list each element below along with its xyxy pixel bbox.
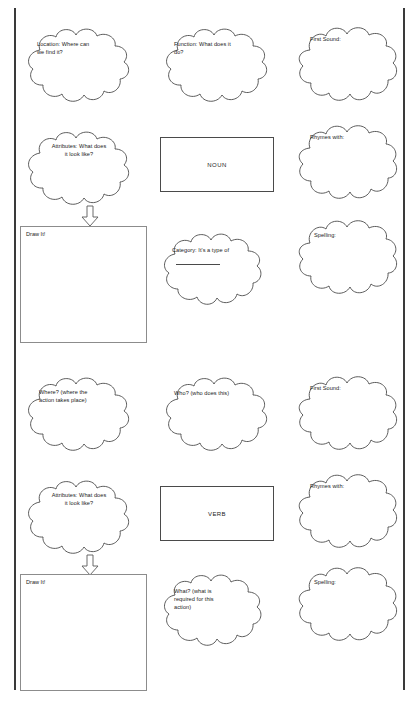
cloud-noun-rhymes-label: Rhymes with: [310, 133, 390, 141]
cloud-verb-spelling-label: Spelling: [314, 578, 394, 586]
down-arrow-icon-noun [81, 205, 99, 227]
draw-it-box-noun[interactable]: Draw It! [20, 226, 147, 343]
cloud-shape [160, 373, 276, 459]
category-blank-line-noun [176, 264, 220, 265]
cloud-noun-spelling: Spelling: [296, 215, 402, 303]
cloud-noun-rhymes: Rhymes with: [296, 120, 402, 208]
cloud-verb-what: What? (what is required for this action) [158, 570, 270, 654]
cloud-noun-spelling-label: Spelling: [314, 231, 394, 239]
cloud-noun-first-sound: First Sound: [296, 22, 402, 110]
cloud-noun-function: Function: What does it do? [160, 24, 276, 110]
noun-word-box: NOUN [160, 137, 274, 192]
draw-it-box-noun-label: Draw It! [26, 231, 45, 237]
cloud-noun-location: Location: Where can we find it? [22, 24, 138, 110]
arrow-shape [81, 205, 99, 227]
page-border-right [403, 8, 405, 690]
cloud-noun-category-label: Category: It's a type of [172, 246, 264, 254]
cloud-verb-first-sound-label: First Sound: [310, 384, 390, 392]
cloud-shape [160, 24, 276, 110]
verb-word-box: VERB [160, 486, 274, 541]
cloud-noun-function-label: Function: What does it do? [174, 40, 266, 56]
noun-word-box-label: NOUN [207, 162, 226, 168]
arrow-shape [81, 554, 99, 576]
cloud-shape [22, 476, 138, 562]
cloud-verb-rhymes-label: Rhymes with: [310, 482, 390, 490]
cloud-noun-attributes-label: Attributes: What does it look like? [34, 142, 124, 158]
cloud-shape [296, 215, 402, 303]
cloud-verb-who: Who? (who does this) [160, 373, 276, 459]
cloud-verb-where: Where? (where the action takes place) [22, 373, 138, 459]
page-border-left [14, 8, 16, 690]
cloud-verb-spelling: Spelling: [296, 562, 402, 650]
cloud-verb-what-label: What? (what is required for this action) [174, 587, 252, 612]
cloud-verb-who-label: Who? (who does this) [174, 389, 269, 397]
cloud-verb-attributes-label: Attributes: What does it look like? [34, 491, 124, 507]
draw-it-box-verb-label: Draw It! [26, 579, 45, 585]
cloud-noun-category: Category: It's a type of [158, 229, 270, 313]
cloud-shape [22, 127, 138, 213]
cloud-noun-first-sound-label: First Sound: [310, 35, 390, 43]
cloud-shape [158, 229, 270, 313]
cloud-verb-first-sound: First Sound: [296, 371, 402, 459]
draw-it-box-verb[interactable]: Draw It! [20, 574, 147, 691]
cloud-verb-where-label: Where? (where the action takes place) [39, 388, 127, 404]
cloud-verb-rhymes: Rhymes with: [296, 469, 402, 557]
verb-word-box-label: VERB [208, 511, 226, 517]
down-arrow-icon-verb [81, 554, 99, 576]
cloud-noun-attributes: Attributes: What does it look like? [22, 127, 138, 213]
cloud-verb-attributes: Attributes: What does it look like? [22, 476, 138, 562]
cloud-shape [22, 373, 138, 459]
cloud-noun-location-label: Location: Where can we find it? [37, 40, 125, 56]
cloud-shape [22, 24, 138, 110]
cloud-shape [158, 570, 270, 654]
cloud-shape [296, 562, 402, 650]
worksheet-page: Location: Where can we find it? Function… [0, 0, 417, 707]
